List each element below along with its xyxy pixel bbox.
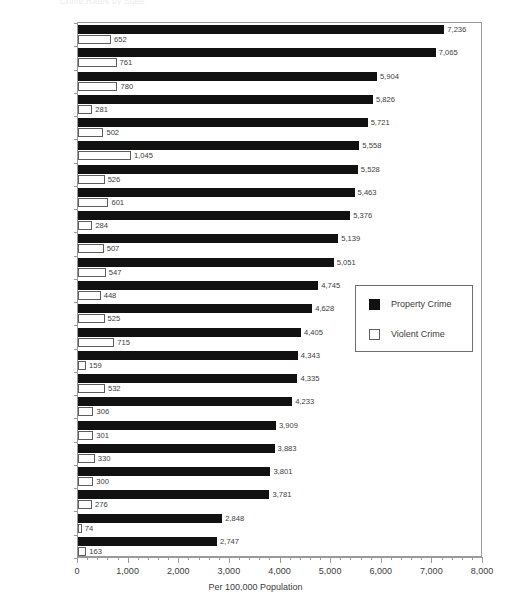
y-axis-tick bbox=[74, 70, 78, 71]
y-axis-tick bbox=[74, 442, 78, 443]
y-axis-tick bbox=[74, 511, 78, 512]
bar-value-label-violent-crime: 159 bbox=[89, 361, 102, 370]
x-axis-minor-tick bbox=[199, 557, 200, 560]
x-axis-minor-tick bbox=[219, 557, 220, 560]
bar-violent-crime bbox=[78, 338, 114, 347]
bar-group: 4,233306 bbox=[78, 397, 481, 416]
bar-value-label-violent-crime: 306 bbox=[96, 407, 109, 416]
bar-violent-crime bbox=[78, 221, 92, 230]
legend-swatch-violent-crime-icon bbox=[369, 329, 380, 340]
x-axis-minor-tick bbox=[310, 557, 311, 560]
bar-value-label-property-crime: 4,343 bbox=[301, 351, 320, 360]
y-axis-tick bbox=[74, 302, 78, 303]
x-axis-minor-tick bbox=[452, 557, 453, 560]
x-axis-minor-tick bbox=[421, 557, 422, 560]
x-axis-minor-tick bbox=[107, 557, 108, 560]
bar-group: 3,909301 bbox=[78, 421, 481, 440]
bar-property-crime bbox=[78, 72, 377, 81]
bar-value-label-violent-crime: 163 bbox=[89, 547, 102, 556]
bar-property-crime bbox=[78, 211, 350, 220]
bar-property-crime bbox=[78, 234, 338, 243]
y-axis-tick bbox=[74, 232, 78, 233]
bar-violent-crime bbox=[78, 431, 93, 440]
bar-property-crime bbox=[78, 444, 275, 453]
bar-violent-crime bbox=[78, 128, 103, 137]
bar-group: 5,139507 bbox=[78, 234, 481, 253]
x-axis-minor-tick bbox=[269, 557, 270, 560]
bar-property-crime bbox=[78, 25, 444, 34]
x-axis-major-tick bbox=[381, 557, 382, 563]
bar-violent-crime bbox=[78, 175, 105, 184]
bar-value-label-property-crime: 4,405 bbox=[304, 328, 323, 337]
bar-value-label-property-crime: 5,051 bbox=[337, 258, 356, 267]
x-axis-minor-tick bbox=[158, 557, 159, 560]
x-axis-minor-tick bbox=[462, 557, 463, 560]
bar-value-label-property-crime: 3,909 bbox=[279, 421, 298, 430]
x-axis-minor-tick bbox=[168, 557, 169, 560]
x-axis-minor-tick bbox=[148, 557, 149, 560]
bar-value-label-violent-crime: 761 bbox=[120, 58, 133, 67]
bar-value-label-violent-crime: 507 bbox=[107, 244, 120, 253]
bar-value-label-violent-crime: 502 bbox=[106, 128, 119, 137]
bar-value-label-property-crime: 2,747 bbox=[220, 537, 239, 546]
y-axis-tick bbox=[74, 256, 78, 257]
bar-value-label-violent-crime: 526 bbox=[108, 175, 121, 184]
x-axis-major-tick bbox=[482, 557, 483, 563]
x-axis-minor-tick bbox=[350, 557, 351, 560]
bar-group: 2,84874 bbox=[78, 514, 481, 533]
bar-group: 5,904780 bbox=[78, 72, 481, 91]
bar-group: 5,528526 bbox=[78, 165, 481, 184]
bar-violent-crime bbox=[78, 314, 105, 323]
bar-property-crime bbox=[78, 514, 222, 523]
bar-group: 5,826281 bbox=[78, 95, 481, 114]
bar-violent-crime bbox=[78, 105, 92, 114]
y-axis-tick bbox=[74, 349, 78, 350]
bar-group: 7,236652 bbox=[78, 25, 481, 44]
bar-group: 5,376284 bbox=[78, 211, 481, 230]
x-axis-major-tick bbox=[280, 557, 281, 563]
bar-property-crime bbox=[78, 490, 269, 499]
bar-value-label-violent-crime: 276 bbox=[95, 500, 108, 509]
bar-violent-crime bbox=[78, 361, 86, 370]
x-axis-title: Per 100,000 Population bbox=[0, 582, 511, 592]
x-axis-major-tick bbox=[330, 557, 331, 563]
x-axis-minor-tick bbox=[361, 557, 362, 560]
bar-value-label-violent-crime: 547 bbox=[109, 268, 122, 277]
y-axis-tick bbox=[74, 395, 78, 396]
bar-value-label-property-crime: 5,139 bbox=[341, 234, 360, 243]
bar-value-label-property-crime: 3,781 bbox=[272, 490, 291, 499]
bar-property-crime bbox=[78, 467, 270, 476]
x-axis-minor-tick bbox=[411, 557, 412, 560]
bar-value-label-violent-crime: 284 bbox=[95, 221, 108, 230]
bar-property-crime bbox=[78, 48, 436, 57]
x-axis-minor-tick bbox=[320, 557, 321, 560]
bar-value-label-property-crime: 5,558 bbox=[362, 141, 381, 150]
y-axis-tick bbox=[74, 488, 78, 489]
bar-value-label-property-crime: 5,904 bbox=[380, 72, 399, 81]
bar-property-crime bbox=[78, 141, 359, 150]
bar-group: 2,747163 bbox=[78, 537, 481, 556]
y-axis-tick bbox=[74, 279, 78, 280]
bar-value-label-property-crime: 4,745 bbox=[321, 281, 340, 290]
bar-value-label-property-crime: 4,233 bbox=[295, 397, 314, 406]
x-axis-minor-tick bbox=[239, 557, 240, 560]
y-axis-tick bbox=[74, 93, 78, 94]
bar-property-crime bbox=[78, 537, 217, 546]
bar-property-crime bbox=[78, 328, 301, 337]
bar-value-label-property-crime: 4,335 bbox=[300, 374, 319, 383]
bar-violent-crime bbox=[78, 384, 105, 393]
x-axis-minor-tick bbox=[118, 557, 119, 560]
x-axis-minor-tick bbox=[87, 557, 88, 560]
bar-value-label-property-crime: 5,721 bbox=[371, 118, 390, 127]
y-axis-tick bbox=[74, 23, 78, 24]
bar-value-label-property-crime: 4,628 bbox=[315, 304, 334, 313]
bar-violent-crime bbox=[78, 151, 131, 160]
x-axis-minor-tick bbox=[97, 557, 98, 560]
x-axis-minor-tick bbox=[371, 557, 372, 560]
bar-property-crime bbox=[78, 188, 355, 197]
bar-value-label-violent-crime: 601 bbox=[111, 198, 124, 207]
bar-value-label-property-crime: 5,463 bbox=[358, 188, 377, 197]
x-axis-minor-tick bbox=[442, 557, 443, 560]
bar-property-crime bbox=[78, 165, 358, 174]
x-axis-minor-tick bbox=[249, 557, 250, 560]
